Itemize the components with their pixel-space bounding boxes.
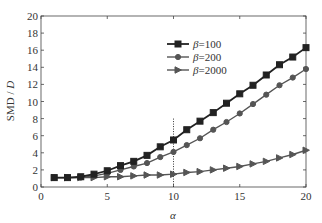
square-marker-icon [250,82,256,88]
square-marker-icon [263,72,269,78]
y-tick-label: 4 [33,147,39,159]
circle-marker-icon [197,136,202,141]
y-tick-label: 0 [33,181,39,193]
square-marker-icon [224,100,230,106]
triangle-right-marker-icon [277,155,283,161]
series-200 [52,66,309,180]
circle-marker-icon [277,83,282,88]
square-marker-icon [144,152,150,158]
square-marker-icon [303,45,309,51]
y-axis-label: SMD / D [4,81,16,121]
square-marker-icon [131,158,137,164]
y-tick-label: 10 [27,96,39,108]
x-axis-label: α [170,209,176,221]
triangle-right-marker-icon [131,173,137,179]
line-chart: 0510152002468101214161820 β=100β=200β=20… [0,0,322,223]
triangle-right-marker-icon [290,151,296,157]
triangle-right-marker-icon [184,169,190,175]
square-marker-icon [51,175,57,181]
y-tick-label: 12 [27,78,38,90]
square-marker-icon [197,118,203,124]
circle-marker-icon [171,149,176,154]
triangle-right-marker-icon [263,158,269,164]
legend-item: β=200 [167,51,222,63]
square-marker-icon [237,91,243,97]
triangle-right-marker-icon [197,168,203,174]
legend-label: β=200 [192,51,222,63]
triangle-right-marker-icon [250,161,256,167]
circle-marker-icon [290,75,295,80]
circle-marker-icon [184,143,189,148]
triangle-right-marker-icon [210,167,216,173]
circle-marker-icon [224,119,229,124]
y-tick-label: 20 [27,10,39,22]
x-tick-label: 0 [38,190,44,202]
circle-marker-icon [175,54,180,59]
square-marker-icon [171,137,177,143]
triangle-right-marker-icon [144,172,150,178]
legend: β=100β=200β=2000 [167,38,227,76]
square-marker-icon [210,110,216,116]
circle-marker-icon [303,66,308,71]
y-tick-label: 14 [27,61,39,73]
circle-marker-icon [158,154,163,159]
square-marker-icon [157,144,163,150]
y-tick-label: 18 [27,27,39,39]
x-tick-label: 20 [301,190,313,202]
square-marker-icon [104,168,110,174]
square-marker-icon [290,54,296,60]
circle-marker-icon [264,92,269,97]
triangle-right-marker-icon [118,174,124,180]
square-marker-icon [91,171,97,177]
y-tick-label: 6 [33,130,39,142]
y-tick-label: 16 [27,44,39,56]
x-tick-label: 5 [105,190,111,202]
triangle-right-marker-icon [175,67,181,73]
x-tick-label: 10 [168,190,180,202]
square-marker-icon [118,163,124,169]
triangle-right-marker-icon [157,172,163,178]
legend-label: β=2000 [192,64,227,76]
square-marker-icon [65,175,71,181]
legend-label: β=100 [192,38,222,50]
square-marker-icon [175,41,181,47]
square-marker-icon [277,62,283,68]
legend-item: β=100 [167,38,222,50]
axes: 0510152002468101214161820 [27,10,312,202]
series-line [54,48,306,178]
circle-marker-icon [211,127,216,132]
series-layer [51,45,309,181]
circle-marker-icon [144,160,149,165]
circle-marker-icon [250,101,255,106]
y-tick-label: 2 [33,164,39,176]
legend-item: β=2000 [167,64,227,76]
x-tick-label: 15 [234,190,246,202]
triangle-right-marker-icon [224,165,230,171]
square-marker-icon [184,127,190,133]
circle-marker-icon [237,111,242,116]
y-tick-label: 8 [33,113,39,125]
square-marker-icon [78,174,84,180]
triangle-right-marker-icon [237,163,243,169]
